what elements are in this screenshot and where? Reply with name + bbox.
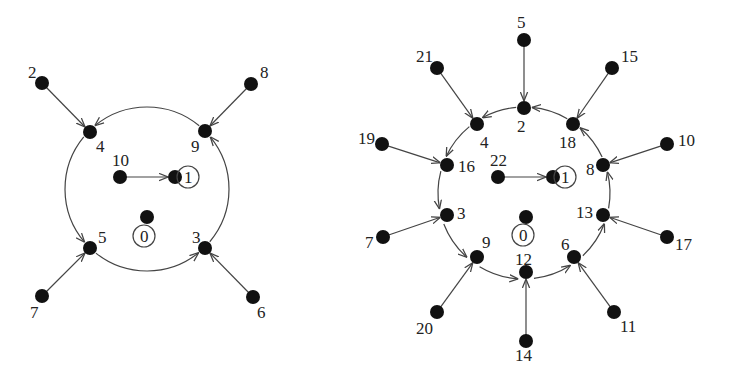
node-10 [113,170,127,184]
node-label: 22 [490,151,507,170]
edge-20-to-9 [441,263,473,307]
node-8 [596,158,610,172]
node-label: 8 [586,160,595,179]
node-7 [376,230,390,244]
edge-9-to-12 [480,267,519,279]
node-label: 15 [621,47,638,66]
edge-21-to-4 [440,73,472,118]
node-label: 16 [458,157,475,176]
edge-7-to-5 [46,253,85,292]
edge-11-to-6 [578,263,610,307]
edge-17-to-13 [610,217,662,235]
edge-2-to-4 [46,87,85,127]
node-label: 5 [517,13,526,32]
right-graph [388,46,662,335]
node-1 [546,170,560,184]
edge-3-to-9 [444,224,467,257]
left-graph-nodes: 012345678910 [28,63,269,322]
node-9 [470,250,484,264]
edge-9-to-4 [95,107,199,126]
node-16 [440,158,454,172]
node-13 [596,208,610,222]
node-label: 4 [96,137,105,156]
node-0 [140,210,154,224]
node-11 [607,305,621,319]
node-6 [246,290,260,304]
left-graph [46,87,249,292]
node-label: 8 [260,63,269,82]
node-label: 9 [482,233,491,252]
node-9 [198,124,212,138]
node-label: 6 [257,303,266,322]
edge-15-to-18 [577,73,609,118]
node-20 [430,305,444,319]
edge-10-to-8 [610,146,662,163]
node-7 [35,289,49,303]
node-label: 11 [620,317,636,336]
node-8 [244,77,258,91]
node-5 [83,241,97,255]
node-18 [566,117,580,131]
node-4 [470,117,484,131]
node-19 [375,137,389,151]
node-label: 13 [576,203,593,222]
node-label: 7 [30,303,39,322]
node-label: 3 [457,204,466,223]
edge-2-to-4 [482,107,516,117]
node-label: 5 [98,228,107,247]
node-label: 14 [515,346,533,365]
node-label: 21 [416,47,433,66]
node-3 [440,208,454,222]
edge-6-to-3 [210,253,249,293]
node-label: 1 [561,168,570,187]
edge-8-to-18 [580,128,602,157]
edge-4-to-5 [65,137,85,243]
node-label: 7 [365,233,374,252]
edge-7-to-3 [389,217,441,235]
node-label: 4 [480,133,489,152]
edge-18-to-2 [532,107,567,118]
node-0 [519,210,533,224]
edge-16-to-3 [438,171,441,209]
node-label: 1 [184,168,193,187]
node-label: 10 [112,151,129,170]
node-label: 18 [559,133,576,152]
graph-diagram: 0123456789100123456789101112131415161718… [0,0,729,383]
node-label: 2 [28,63,37,82]
edge-19-to-16 [388,146,441,163]
node-label: 10 [678,131,695,150]
node-15 [605,61,619,75]
node-2 [35,76,49,90]
node-label: 17 [675,235,693,254]
edge-5-to-3 [96,253,199,271]
edge-6-to-13 [583,223,605,255]
node-label: 9 [191,137,200,156]
node-label: 6 [561,235,570,254]
node-label: 2 [517,117,526,136]
node-10 [660,137,674,151]
node-2 [517,101,531,115]
node-4 [83,125,97,139]
node-label: 20 [416,319,433,338]
edge-12-to-6 [534,265,571,278]
node-1 [168,170,182,184]
node-22 [491,170,505,184]
edge-8-to-9 [210,88,247,126]
node-17 [660,230,674,244]
node-label: 3 [192,228,201,247]
node-5 [517,33,531,47]
node-label: 0 [519,226,528,245]
edge-13-to-8 [607,172,610,209]
edge-4-to-16 [446,127,469,157]
node-label: 12 [515,250,532,269]
node-label: 19 [358,129,375,148]
node-label: 0 [140,227,149,246]
edge-3-to-9 [210,137,229,242]
